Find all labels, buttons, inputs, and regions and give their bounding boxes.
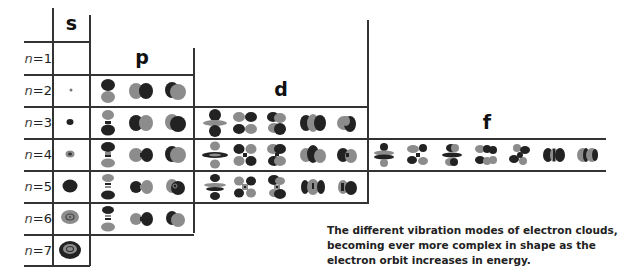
column-header-s: s bbox=[54, 12, 89, 34]
s-orbital-icon-n6 bbox=[60, 208, 80, 226]
n-symbol: n bbox=[25, 51, 33, 66]
n-value: =3 bbox=[33, 115, 52, 130]
p-orbital-icon-n2-y bbox=[163, 80, 187, 102]
p-orbital-icon-n6-x bbox=[128, 209, 154, 229]
p-orbital-icon-n3-z bbox=[99, 109, 117, 137]
f-orbital-icon-6 bbox=[541, 145, 567, 165]
grid-line-row-4 bbox=[24, 170, 606, 172]
p-orbital-icon-n4-x bbox=[128, 145, 154, 165]
n-symbol: n bbox=[25, 243, 33, 258]
p-orbital-icon-n5-z bbox=[99, 173, 117, 201]
n-symbol: n bbox=[25, 115, 33, 130]
d-orbital-icon-n3-x2y2 bbox=[334, 113, 360, 133]
f-orbital-icon-4 bbox=[473, 142, 499, 168]
s-orbital-icon-n5 bbox=[61, 177, 79, 195]
grid-line-row-6 bbox=[24, 234, 194, 236]
p-orbital-icon-n4-y bbox=[163, 144, 187, 166]
column-header-f: f bbox=[368, 111, 606, 133]
d-orbital-icon-n5-xy bbox=[232, 174, 258, 200]
f-orbital-icon-1 bbox=[371, 142, 397, 168]
s-orbital-icon-n7 bbox=[58, 239, 82, 261]
p-orbital-icon-n3-y bbox=[163, 112, 187, 134]
n-symbol: n bbox=[25, 179, 33, 194]
d-orbital-icon-n4-z2 bbox=[200, 141, 230, 169]
p-orbital-icon-n5-x bbox=[128, 177, 154, 197]
n-symbol: n bbox=[25, 211, 33, 226]
d-orbital-icon-n5-xz bbox=[264, 174, 290, 200]
row-label-n6: n=6 bbox=[24, 211, 52, 226]
grid-line-row-5 bbox=[24, 202, 369, 204]
grid-line-row-1 bbox=[24, 74, 194, 76]
p-orbital-icon-n6-z bbox=[99, 205, 117, 233]
column-header-p: p bbox=[90, 46, 194, 68]
column-header-d: d bbox=[194, 78, 368, 100]
grid-line-row-3 bbox=[24, 138, 606, 140]
p-orbital-icon-n2-z bbox=[99, 78, 117, 104]
n-value: =6 bbox=[33, 211, 52, 226]
row-label-n1: n=1 bbox=[24, 51, 52, 66]
grid-line-row-7 bbox=[24, 265, 90, 267]
row-label-n2: n=2 bbox=[24, 83, 52, 98]
s-orbital-icon-n3 bbox=[64, 116, 76, 128]
d-orbital-icon-n4-x2y2 bbox=[334, 145, 360, 165]
p-orbital-icon-n2-x bbox=[128, 81, 154, 101]
n-symbol: n bbox=[25, 147, 33, 162]
n-value: =2 bbox=[33, 83, 52, 98]
row-label-n4: n=4 bbox=[24, 147, 52, 162]
n-value: =7 bbox=[33, 243, 52, 258]
n-value: =1 bbox=[33, 51, 52, 66]
d-orbital-icon-n4-yz bbox=[298, 145, 328, 165]
s-orbital-icon-n2 bbox=[66, 85, 76, 95]
s-orbital-icon-n4 bbox=[63, 147, 77, 161]
d-orbital-icon-n3-z2 bbox=[200, 108, 230, 138]
p-orbital-icon-n3-x bbox=[128, 113, 154, 133]
f-orbital-icon-7 bbox=[575, 145, 601, 165]
f-orbital-icon-5 bbox=[507, 142, 533, 168]
row-label-n3: n=3 bbox=[24, 115, 52, 130]
p-orbital-icon-n5-y bbox=[163, 176, 187, 198]
p-orbital-icon-n6-y bbox=[163, 208, 187, 230]
d-orbital-icon-n4-xz bbox=[264, 142, 290, 168]
f-orbital-icon-2 bbox=[405, 142, 431, 168]
n-value: =5 bbox=[33, 179, 52, 194]
row-label-n7: n=7 bbox=[24, 243, 52, 258]
d-orbital-icon-n3-xz bbox=[264, 110, 290, 136]
d-orbital-icon-n5-yz bbox=[298, 177, 328, 197]
d-orbital-icon-n5-x2y2 bbox=[334, 177, 360, 197]
p-orbital-icon-n4-z bbox=[99, 141, 117, 169]
n-symbol: n bbox=[25, 83, 33, 98]
grid-line-row-2 bbox=[24, 106, 369, 108]
f-orbital-icon-3 bbox=[439, 142, 465, 168]
d-orbital-icon-n5-z2 bbox=[200, 173, 230, 201]
n-value: =4 bbox=[33, 147, 52, 162]
row-label-n5: n=5 bbox=[24, 179, 52, 194]
d-orbital-icon-n3-xy bbox=[232, 110, 258, 136]
grid-line-s-header bbox=[24, 41, 90, 43]
d-orbital-icon-n3-yz bbox=[298, 113, 328, 133]
figure-caption: The different vibration modes of electro… bbox=[327, 223, 627, 268]
d-orbital-icon-n4-xy bbox=[232, 142, 258, 168]
